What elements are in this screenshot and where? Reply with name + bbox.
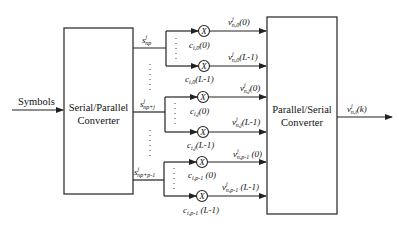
group1-coeff-top: ci,j(0) [190, 106, 209, 117]
group0-input-label: sjnp [142, 34, 151, 46]
ps-converter-label-line1: Parallel/Serial [272, 104, 332, 115]
multiplier-symbol: X [198, 157, 205, 167]
group1-coeff-bot: ci,j(L-1) [187, 140, 214, 151]
group2-out-bot: vjn,p-1 (L-1) [222, 181, 259, 193]
group2-coeff-bot: ci,p-1 (L-1) [183, 205, 219, 216]
group1-out-top: vjn,j(0) [240, 82, 260, 94]
group0-out-bot: vjn,0(L-1) [228, 51, 258, 63]
parallel-serial-converter-box [267, 17, 337, 214]
multiplier-symbol: X [199, 92, 206, 102]
output-label: vjn,i(k) [347, 103, 367, 115]
multiplier-symbol: X [200, 61, 207, 71]
group0-coeff-bot: ci,0(L-1) [185, 74, 214, 85]
group2-out-top: vjn,p-1 (0) [233, 148, 262, 160]
branch-group-0: sjnp X X ci,0(0) ci,0(L-1) vjn,0(0) vjn,… [133, 16, 266, 85]
multiplier-symbol: X [199, 127, 206, 137]
group0-out-top: vjn,0(0) [228, 16, 250, 28]
branch-group-1: sjnp+j X X ci,j(0) ci,j(L-1) vjn,j(0) vj… [133, 82, 266, 151]
sp-converter-label-line2: Converter [78, 115, 120, 126]
ps-converter-label-line2: Converter [281, 117, 323, 128]
group1-input-label: sjnp+j [140, 98, 155, 110]
block-diagram: Symbols Serial/Parallel Converter Parall… [0, 0, 399, 226]
group0-coeff-top: ci,0(0) [189, 40, 210, 51]
group1-out-bot: vjn,j(L-1) [232, 116, 260, 128]
group2-input-label: sjnp+p-1 [134, 166, 155, 178]
multiplier-symbol: X [200, 26, 207, 36]
sp-converter-label-line1: Serial/Parallel [69, 102, 129, 113]
branch-group-2: sjnp+p-1 X X ci,p-1 (0) ci,p-1 (L-1) vjn… [133, 148, 266, 216]
symbols-label: Symbols [18, 96, 55, 107]
multiplier-symbol: X [198, 191, 205, 201]
group2-coeff-top: ci,p-1 (0) [188, 170, 216, 181]
